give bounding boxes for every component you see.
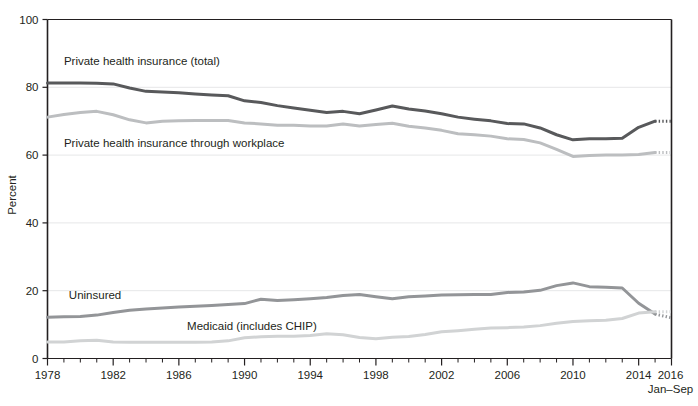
series-projection-2 — [655, 314, 671, 318]
x-tick-label-2014: 2014 — [626, 369, 652, 381]
x-axis-note-text: Jan–Sep — [648, 383, 693, 395]
x-axis-ticks — [48, 359, 672, 366]
x-tick-label-1990: 1990 — [232, 369, 258, 381]
plot-frame — [48, 20, 672, 359]
x-tick-label-2010: 2010 — [560, 369, 586, 381]
series-label-2: Uninsured — [69, 289, 121, 301]
series-label-1: Private health insurance through workpla… — [64, 137, 285, 149]
y-axis-title: Percent — [6, 174, 18, 214]
series-line-3 — [48, 312, 656, 343]
x-tick-label-2016: 2016 — [658, 369, 684, 381]
y-axis-title-text: Percent — [6, 174, 18, 214]
x-axis-note: Jan–Sep — [648, 383, 693, 395]
x-tick-label-1978: 1978 — [35, 369, 61, 381]
x-tick-label-2006: 2006 — [494, 369, 520, 381]
series-line-1 — [48, 111, 656, 156]
y-tick-label-20: 20 — [26, 285, 39, 297]
y-tick-label-40: 40 — [26, 217, 39, 229]
chart-canvas: 1978198219861990199419982002200620102014… — [0, 0, 698, 406]
y-tick-label-80: 80 — [26, 81, 39, 93]
y-tick-label-0: 0 — [32, 353, 38, 365]
y-tick-label-100: 100 — [19, 14, 38, 26]
x-tick-label-1994: 1994 — [297, 369, 323, 381]
x-axis-tick-labels: 1978198219861990199419982002200620102014… — [35, 369, 684, 381]
y-axis-tick-labels: 020406080100 — [19, 14, 38, 365]
data-series-lines — [48, 83, 672, 342]
y-tick-label-60: 60 — [26, 149, 39, 161]
gridlines — [48, 87, 672, 290]
x-tick-label-1998: 1998 — [363, 369, 389, 381]
series-label-0: Private health insurance (total) — [64, 55, 220, 67]
x-tick-label-2002: 2002 — [429, 369, 455, 381]
x-tick-label-1986: 1986 — [166, 369, 192, 381]
health-insurance-coverage-line-chart: 1978198219861990199419982002200620102014… — [0, 0, 698, 406]
series-line-0 — [48, 83, 656, 140]
x-tick-label-1982: 1982 — [100, 369, 126, 381]
series-line-2 — [48, 283, 656, 317]
series-label-3: Medicaid (includes CHIP) — [187, 320, 317, 332]
